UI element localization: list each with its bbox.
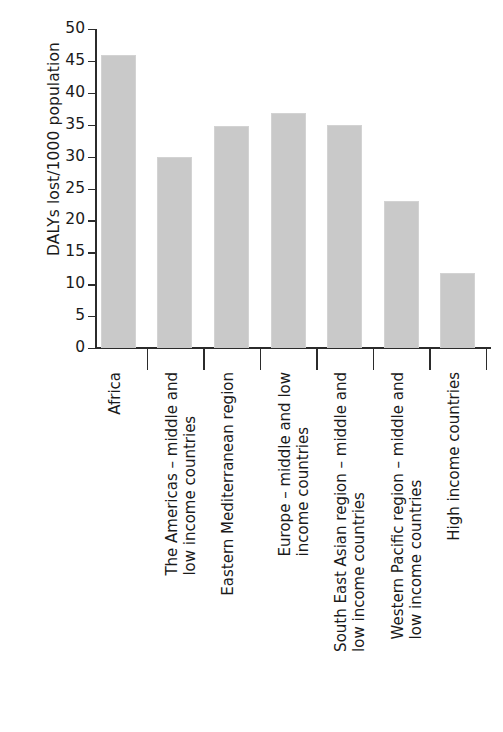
y-axis-tick-label: 45	[45, 53, 85, 69]
y-axis-tick-label: 40	[45, 85, 85, 101]
y-axis-tick-label: 20	[45, 213, 85, 229]
plot-area	[95, 29, 491, 348]
category-label-line: low income countries	[181, 372, 199, 576]
bar	[157, 157, 192, 348]
bar	[101, 55, 136, 348]
category-label: Europe – middle and lowincome countries	[277, 372, 312, 556]
bar	[384, 201, 419, 348]
category-label-line: Africa	[107, 372, 125, 415]
category-label: South East Asian region – middle andlow …	[333, 372, 368, 652]
y-axis-tick-label: 10	[45, 276, 85, 292]
category-label-line: Western Pacific region – middle and	[390, 372, 408, 639]
bar-chart: DALYs lost/1000 population 0510152025303…	[0, 0, 503, 732]
x-axis-tick	[373, 348, 374, 370]
y-axis-tick-label: 50	[45, 21, 85, 37]
category-label-line: Europe – middle and low	[277, 372, 295, 556]
x-axis-tick	[429, 348, 430, 370]
bar	[271, 113, 306, 348]
y-axis-tick	[88, 189, 95, 190]
x-axis-tick	[486, 348, 487, 370]
y-axis-tick-label: 5	[45, 308, 85, 324]
bar	[214, 126, 249, 348]
y-axis-tick-label: 35	[45, 117, 85, 133]
bar	[327, 125, 362, 348]
y-axis-tick	[88, 93, 95, 94]
x-axis-tick	[260, 348, 261, 370]
x-axis-tick	[316, 348, 317, 370]
y-axis-tick-label: 30	[45, 149, 85, 165]
category-label: Eastern Mediterranean region	[220, 372, 238, 596]
category-label: Western Pacific region – middle andlow i…	[390, 372, 425, 639]
category-label-line: High income countries	[446, 372, 464, 541]
y-axis-tick	[88, 284, 95, 285]
category-label-line: South East Asian region – middle and	[333, 372, 351, 652]
y-axis-tick	[88, 157, 95, 158]
category-label: The Americas – middle andlow income coun…	[164, 372, 199, 576]
y-axis-tick	[88, 252, 95, 253]
x-axis-tick	[203, 348, 204, 370]
bar	[440, 273, 475, 348]
y-axis-tick	[88, 316, 95, 317]
category-label-line: low income countries	[351, 372, 369, 652]
category-label: Africa	[107, 372, 125, 415]
y-axis-tick	[88, 348, 95, 349]
y-axis-tick	[88, 220, 95, 221]
category-label-line: low income countries	[407, 372, 425, 639]
x-axis-tick	[147, 348, 148, 370]
category-label-line: Eastern Mediterranean region	[220, 372, 238, 596]
category-label-line: The Americas – middle and	[164, 372, 182, 576]
y-axis-tick	[88, 29, 95, 30]
y-axis-tick-label: 25	[45, 181, 85, 197]
category-label-line: income countries	[294, 372, 312, 556]
y-axis-tick	[88, 61, 95, 62]
y-axis-tick-label: 0	[45, 340, 85, 356]
y-axis-tick	[88, 125, 95, 126]
category-label: High income countries	[446, 372, 464, 541]
y-axis-tick-label: 15	[45, 245, 85, 261]
